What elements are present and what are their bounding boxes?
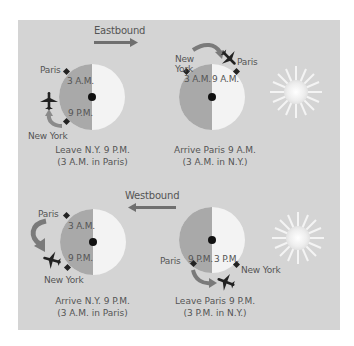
paris-marker-icon bbox=[63, 212, 70, 219]
sun-icon bbox=[270, 66, 322, 118]
time-label: 9 P.M. bbox=[68, 108, 93, 118]
airplane-icon bbox=[41, 249, 63, 271]
time-label: 3 A.M. bbox=[68, 221, 95, 231]
time-label: 3 P.M. bbox=[214, 254, 239, 264]
eastbound-label: Eastbound bbox=[94, 25, 145, 36]
time-label: 9 P.M. bbox=[68, 253, 93, 263]
caption-leave-ny: Leave N.Y. 9 P.M. (3 A.M. in Paris) bbox=[40, 144, 145, 168]
city-label-paris: Paris bbox=[160, 256, 180, 266]
city-label-paris: Paris bbox=[237, 57, 257, 67]
city-label-newyork: New York bbox=[241, 265, 281, 275]
city-label-paris: Paris bbox=[38, 209, 58, 219]
city-label-newyork: New York bbox=[28, 131, 68, 141]
time-label: 3 A.M. bbox=[67, 76, 94, 86]
eastbound-arrow-icon bbox=[94, 38, 138, 47]
airplane-icon bbox=[40, 92, 58, 110]
city-label-newyork: New York bbox=[44, 275, 84, 285]
caption-leave-paris: Leave Paris 9 P.M. (3 P.M. in N.Y.) bbox=[160, 295, 270, 319]
city-label-paris: Paris bbox=[40, 65, 60, 75]
curved-arrow-icon bbox=[193, 45, 220, 52]
time-label: 3 A.M. bbox=[184, 74, 211, 84]
westbound-label: Westbound bbox=[125, 190, 179, 201]
time-label: 9 A.M. bbox=[212, 74, 239, 84]
city-label-newyork: New York bbox=[175, 54, 203, 74]
airplane-icon bbox=[214, 270, 237, 293]
time-label: 9 P.M. bbox=[188, 254, 213, 264]
caption-arrive-paris: Arrive Paris 9 A.M. (3 A.M. in N.Y.) bbox=[160, 144, 270, 168]
caption-arrive-ny: Arrive N.Y. 9 P.M. (3 A.M. in Paris) bbox=[40, 295, 145, 319]
sun-icon bbox=[272, 212, 324, 264]
earth-globe-icon bbox=[60, 209, 126, 275]
westbound-arrow-icon bbox=[128, 203, 176, 212]
earth-globe-icon bbox=[59, 64, 125, 130]
